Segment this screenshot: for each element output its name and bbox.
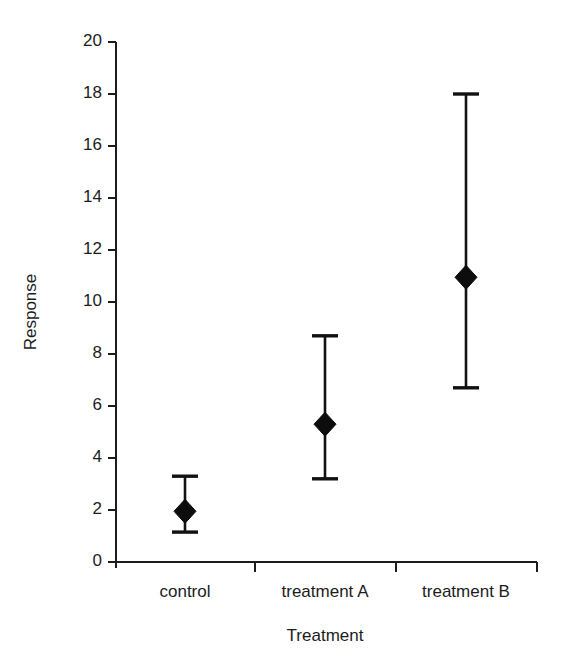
x-category-label: treatment B — [422, 582, 510, 601]
y-tick-label: 4 — [93, 447, 102, 466]
y-tick-label: 12 — [83, 239, 102, 258]
x-axis-title: Treatment — [287, 626, 364, 645]
y-tick-label: 8 — [93, 343, 102, 362]
y-tick-label: 18 — [83, 83, 102, 102]
y-tick-label: 14 — [83, 187, 102, 206]
y-tick-label: 10 — [83, 291, 102, 310]
x-category-label: treatment A — [282, 582, 370, 601]
y-tick-label: 0 — [93, 551, 102, 570]
x-category-label: control — [159, 582, 210, 601]
y-tick-label: 20 — [83, 31, 102, 50]
y-tick-label: 6 — [93, 395, 102, 414]
error-bar-plot: 20 18 16 14 12 10 8 6 4 2 0 — [0, 0, 561, 656]
chart-figure: 20 18 16 14 12 10 8 6 4 2 0 — [0, 0, 561, 656]
y-axis-title: Response — [21, 274, 40, 351]
y-tick-label: 2 — [93, 499, 102, 518]
y-tick-label: 16 — [83, 135, 102, 154]
